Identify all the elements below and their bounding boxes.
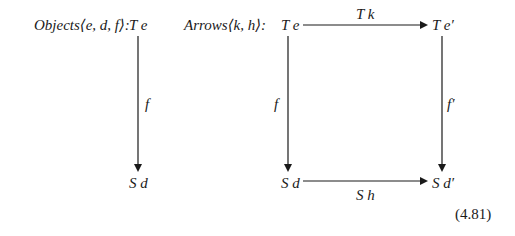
arrowhead-icon — [438, 164, 446, 172]
arrowhead-icon — [420, 177, 428, 185]
arrowhead-icon — [134, 164, 142, 172]
arrowhead-icon — [420, 21, 428, 29]
arrowhead-icon — [284, 164, 292, 172]
diagram-arrows — [0, 0, 515, 236]
